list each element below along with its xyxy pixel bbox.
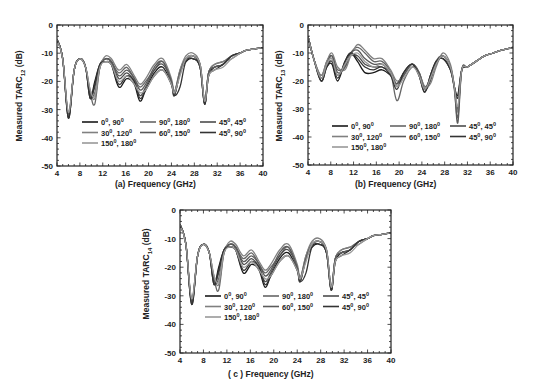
x-tick-label: 12 [98,169,107,178]
x-tick-label: 32 [213,169,222,178]
plot-a: 4812162024283236400-10-20-30-40-5000, 90… [0,0,270,195]
legend-label: 450, 450 [342,291,369,301]
x-tick-label: 40 [509,168,518,177]
x-tick-label: 12 [349,168,358,177]
y-tick-label: 0 [300,21,305,30]
x-tick-label: 32 [340,356,349,365]
x-tick-label: 4 [55,169,60,178]
x-tick-label: 8 [201,356,206,365]
y-label-text: Measured TARC [141,254,151,319]
x-tick-label: 28 [190,169,199,178]
legend-label: 450, 900 [219,128,246,138]
x-tick-label: 28 [316,356,325,365]
legend-label: 900, 1800 [159,117,190,127]
y-tick-label: -40 [292,133,304,142]
y-axis-label-b: Measured TARC13 (dB) [274,26,286,166]
y-label-unit: (dB) [14,50,24,69]
legend-label: 1500, 1800 [101,138,136,148]
plot-frame [308,25,513,165]
series-group [57,39,263,118]
y-label-text: Measured TARC [14,76,24,141]
legend-label: 300, 1200 [224,302,255,312]
y-tick-label: -10 [41,49,53,58]
chart-panel-b: 4812162024283236400-10-20-30-40-5000, 90… [270,0,539,195]
legend-label: 450, 450 [219,117,246,127]
x-tick-label: 4 [178,356,183,365]
series-line [308,36,513,106]
y-tick-label: -30 [292,105,304,114]
y-tick-label: -40 [164,320,176,329]
x-tick-label: 20 [144,169,153,178]
y-tick-label: -30 [164,292,176,301]
legend-label: 900, 1800 [409,121,440,131]
y-label-unit: (dB) [274,50,284,69]
legend: 00, 900900, 1800450, 450300, 1200600, 15… [82,117,246,148]
x-tick-label: 36 [236,169,245,178]
x-axis-label-a: (a) Frequency (GHz) [115,179,196,189]
plot-frame [180,210,391,353]
legend-label: 00, 900 [101,117,124,127]
legend-label: 450, 900 [342,302,369,312]
legend-label: 600, 1500 [409,132,440,142]
y-tick-label: -30 [41,106,53,115]
y-label-subscript: 12 [20,70,26,77]
y-tick-label: -10 [164,235,176,244]
y-label-text: Measured TARC [274,76,284,141]
plot-b: 4812162024283236400-10-20-30-40-5000, 90… [270,0,539,195]
y-axis-label-c: Measured TARC14 (dB) [141,209,153,339]
y-tick-label: -50 [292,161,304,170]
x-tick-label: 24 [417,168,426,177]
series-line [57,39,263,112]
x-tick-label: 16 [121,169,130,178]
legend-label: 1500, 1800 [224,312,259,322]
x-tick-label: 24 [167,169,176,178]
x-tick-label: 16 [372,168,381,177]
y-tick-label: -50 [41,162,53,171]
y-label-unit: (dB) [141,228,151,247]
x-tick-label: 20 [395,168,404,177]
y-tick-label: 0 [49,21,54,30]
legend: 00, 900900, 1800450, 450300, 1200600, 15… [205,291,369,322]
y-label-subscript: 13 [280,70,286,77]
x-tick-label: 16 [246,356,255,365]
x-tick-label: 32 [463,168,472,177]
y-tick-label: 0 [172,206,177,215]
legend-label: 00, 900 [224,291,247,301]
y-tick-label: -50 [164,349,176,358]
x-tick-label: 28 [440,168,449,177]
y-tick-label: -20 [164,263,176,272]
x-tick-label: 40 [259,169,268,178]
y-label-subscript: 14 [147,248,153,255]
legend-label: 300, 1200 [351,132,382,142]
legend-label: 1500, 1800 [351,142,386,152]
x-tick-label: 4 [306,168,311,177]
x-tick-label: 24 [293,356,302,365]
series-line [308,36,513,112]
legend: 00, 900900, 1800450, 450300, 1200600, 15… [332,121,496,152]
chart-panel-c: 4812162024283236400-10-20-30-40-5000, 90… [130,195,410,392]
x-tick-label: 20 [269,356,278,365]
x-axis-label-b: (b) Frequency (GHz) [355,179,436,189]
plot-c: 4812162024283236400-10-20-30-40-5000, 90… [130,195,410,392]
legend-label: 450, 450 [469,121,496,131]
series-group [308,36,513,123]
chart-panel-a: 4812162024283236400-10-20-30-40-5000, 90… [0,0,270,195]
x-tick-label: 12 [222,356,231,365]
series-line [180,224,391,298]
x-tick-label: 8 [78,169,83,178]
x-tick-label: 36 [363,356,372,365]
y-tick-label: -40 [41,134,53,143]
x-tick-label: 40 [387,356,396,365]
y-tick-label: -20 [41,77,53,86]
legend-label: 900, 1800 [282,291,313,301]
legend-label: 00, 900 [351,121,374,131]
x-axis-label-c: ( c ) Frequency (GHz) [228,369,313,379]
plot-frame [57,25,263,166]
x-tick-label: 8 [329,168,334,177]
legend-label: 600, 1500 [282,302,313,312]
x-tick-label: 36 [486,168,495,177]
y-tick-label: -10 [292,49,304,58]
legend-label: 450, 900 [469,132,496,142]
legend-label: 300, 1200 [101,128,132,138]
y-axis-label-a: Measured TARC12 (dB) [14,36,26,156]
